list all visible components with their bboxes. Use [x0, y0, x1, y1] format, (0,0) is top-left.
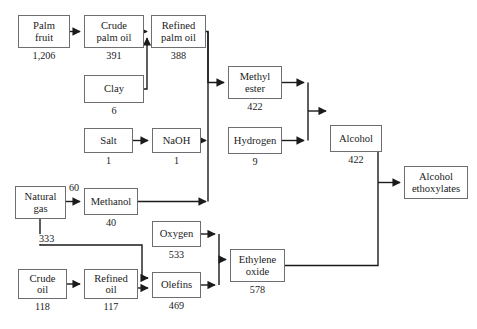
- node-clay: Clay: [84, 75, 144, 103]
- node-salt: Salt: [84, 128, 133, 153]
- flow-diagram: Palmfruit 1,206 Crudepalm oil 391 Refine…: [0, 0, 477, 329]
- node-hydrogen: Hydrogen: [228, 127, 282, 154]
- node-natural-gas: Naturalgas: [15, 186, 66, 219]
- edge-refinedpalmoil-methylester: [206, 32, 224, 83]
- node-naoh: NaOH: [152, 128, 201, 153]
- node-ethylene-oxide: Ethyleneoxide: [230, 249, 285, 282]
- node-value-refined-oil: 117: [84, 301, 138, 312]
- node-value-clay: 6: [84, 105, 144, 116]
- node-oxygen: Oxygen: [152, 221, 201, 247]
- node-value-naoh: 1: [152, 155, 201, 166]
- node-value-salt: 1: [84, 155, 133, 166]
- edge-ethyleneoxide-up: [285, 182, 378, 266]
- node-value-alcohol: 422: [330, 154, 382, 165]
- node-crude-oil: Crudeoil: [18, 269, 67, 299]
- node-value-oxygen: 533: [152, 249, 201, 260]
- edge-label-natural-gas-branch: 333: [38, 234, 55, 244]
- edge-label-natural-gas-methanol: 60: [68, 183, 80, 193]
- node-value-crude-oil: 118: [18, 301, 67, 312]
- node-value-methyl-ester: 422: [228, 101, 282, 112]
- node-crude-palm-oil: Crudepalm oil: [84, 15, 144, 48]
- node-value-methanol: 40: [84, 217, 138, 228]
- node-refined-oil: Refinedoil: [84, 269, 138, 299]
- node-alcohol-ethoxylates: Alcoholethoxylates: [404, 166, 468, 199]
- node-value-hydrogen: 9: [228, 156, 282, 167]
- node-value-palm-fruit: 1,206: [18, 50, 70, 61]
- node-value-crude-palm-oil: 391: [84, 50, 144, 61]
- node-alcohol: Alcohol: [330, 125, 382, 152]
- node-value-ethylene-oxide: 578: [230, 284, 285, 295]
- node-methanol: Methanol: [84, 188, 138, 215]
- node-value-refined-palm-oil: 388: [151, 50, 206, 61]
- edge-clay-crudepalmoil: [144, 38, 147, 89]
- node-refined-palm-oil: Refinedpalm oil: [151, 15, 206, 48]
- node-value-olefins: 469: [152, 300, 201, 311]
- node-olefins: Olefins: [152, 272, 201, 298]
- node-methyl-ester: Methylester: [228, 66, 282, 99]
- node-palm-fruit: Palmfruit: [18, 15, 70, 48]
